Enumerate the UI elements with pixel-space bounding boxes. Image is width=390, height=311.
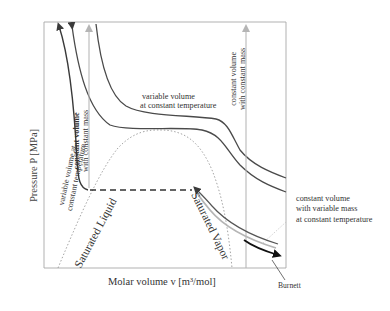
pv-diagram: Pressure P [MPa] Molar volume v [m³/mol]…: [0, 0, 390, 311]
label-line: at constant temperature: [140, 101, 216, 110]
label-line: with constant mass: [238, 48, 247, 110]
variable-mass-leader: [262, 222, 286, 244]
label-line: variable volume: [140, 92, 216, 101]
label-line: with variable mass: [296, 204, 372, 214]
label-line: at constant temperature: [296, 215, 372, 225]
pv-diagram-graphics: [0, 0, 390, 311]
label-variable-volume-constant-temperature: variable volume at constant temperature: [140, 92, 216, 111]
x-axis-label: Molar volume v [m³/mol]: [108, 276, 216, 288]
label-burnett: Burnett: [278, 282, 301, 291]
label-constant-volume-variable-mass: constant volume with variable mass at co…: [296, 194, 372, 225]
label-constant-volume-constant-mass-right: constant volume with constant mass: [229, 48, 248, 110]
label-line: constant volume: [229, 48, 238, 110]
y-axis-label: Pressure P [MPa]: [28, 129, 40, 202]
label-line: constant volume: [296, 194, 372, 204]
burnett-leader: [272, 260, 285, 280]
